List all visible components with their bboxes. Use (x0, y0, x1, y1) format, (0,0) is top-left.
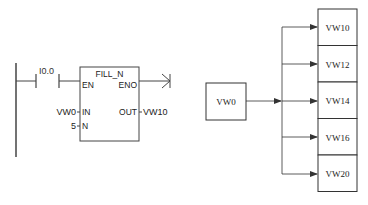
source-label: VW0 (216, 97, 236, 107)
fill-n-diagram: I0.0 FILL_N EN ENO IN N OUT VW0 5 VW10 (0, 0, 368, 205)
in-operand: VW0 (56, 107, 76, 117)
target-cell: VW12 (326, 60, 350, 70)
pin-eno: ENO (119, 80, 138, 90)
pin-out: OUT (119, 107, 137, 117)
contact-label: I0.0 (39, 66, 54, 76)
target-cell: VW20 (326, 169, 350, 179)
target-cell: VW14 (326, 96, 350, 106)
pin-n: N (82, 121, 88, 131)
ladder-rung: I0.0 FILL_N EN ENO IN N OUT VW0 5 VW10 (16, 63, 170, 157)
pin-in: IN (82, 107, 91, 117)
target-cell: VW10 (326, 23, 350, 33)
target-stack: VW10 VW12 VW14 VW16 VW20 (318, 9, 357, 192)
target-cell: VW16 (326, 133, 350, 143)
normally-open-contact[interactable] (36, 74, 59, 88)
out-operand: VW10 (143, 107, 168, 117)
fill-n-block[interactable]: FILL_N EN ENO IN N OUT (80, 67, 139, 141)
pin-en: EN (82, 80, 94, 90)
block-title: FILL_N (96, 69, 124, 79)
source-box: VW0 (206, 83, 246, 120)
n-operand: 5 (71, 121, 76, 131)
fill-flow-diagram: VW0 VW10 VW12 VW14 VW16 VW20 (206, 9, 357, 192)
